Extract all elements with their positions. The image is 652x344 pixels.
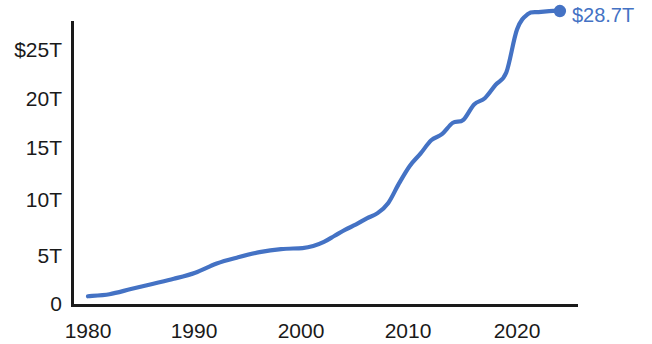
x-tick-label-1980: 1980 — [65, 320, 112, 341]
y-tick-label-10t: 10T — [26, 189, 62, 210]
x-tick-label-2020: 2020 — [494, 320, 541, 341]
chart-plot-area — [0, 0, 652, 344]
y-tick-label-20t: 20T — [26, 88, 62, 109]
x-tick-label-2010: 2010 — [385, 320, 432, 341]
line-chart: $25T 20T 15T 10T 5T 0 1980 1990 2000 201… — [0, 0, 652, 344]
y-tick-label-5t: 5T — [37, 245, 62, 266]
x-tick-label-2000: 2000 — [278, 320, 325, 341]
endpoint-marker-dot — [554, 5, 566, 17]
x-tick-label-1990: 1990 — [171, 320, 218, 341]
y-tick-label-15t: 15T — [26, 137, 62, 158]
series-line-total — [88, 11, 560, 296]
y-tick-label-0: 0 — [50, 293, 62, 314]
y-tick-label-25t: $25T — [14, 39, 62, 60]
endpoint-value-label: $28.7T — [572, 5, 634, 25]
